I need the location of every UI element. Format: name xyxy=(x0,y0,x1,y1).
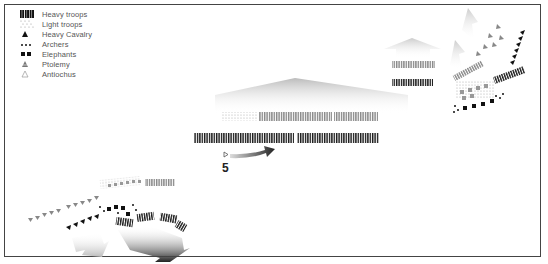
antiochus-icon xyxy=(224,152,228,157)
right-antiochus-heavy xyxy=(392,79,433,86)
legend-item-heavy-troops: Heavy troops xyxy=(20,9,92,19)
legend-item-antiochus: Antiochus xyxy=(20,69,92,79)
right-light-troops xyxy=(455,80,495,98)
left-antiochus-elephants xyxy=(99,204,137,216)
legend-label: Elephants xyxy=(42,50,76,59)
center-light-troops xyxy=(222,112,258,121)
center-advance-arrow xyxy=(215,78,408,113)
legend-label: Light troops xyxy=(42,20,82,29)
center-ptolemy-heavy-1 xyxy=(259,112,332,121)
legend-item-archers: Archers xyxy=(20,39,92,49)
archers-icon xyxy=(20,39,38,49)
antiochus-icon xyxy=(20,69,38,79)
right-ptolemy-heavy xyxy=(392,61,435,68)
left-retreat-arrow-dark xyxy=(118,226,190,262)
center-ptolemy-heavy-2 xyxy=(334,112,378,121)
center-formation xyxy=(194,78,408,143)
legend-label: Ptolemy xyxy=(42,60,70,69)
right-antiochus-cavalry xyxy=(510,30,525,65)
legend-label: Archers xyxy=(42,40,69,49)
legend-item-ptolemy: Ptolemy xyxy=(20,59,92,69)
right-advance-arrow-3 xyxy=(462,8,478,40)
light-troops-icon xyxy=(20,19,38,29)
legend-label: Heavy Cavalry xyxy=(42,30,92,39)
right-advance-arrow-2 xyxy=(450,40,465,70)
right-antiochus-heavy-angled xyxy=(493,66,525,84)
right-advance-arrow-1 xyxy=(384,38,441,58)
legend-label: Antiochus xyxy=(42,70,76,79)
legend: Heavy troops Light troops Heavy Cavalry … xyxy=(20,9,92,79)
center-antiochus-heavy-2 xyxy=(297,133,379,143)
left-antiochus-cavalry xyxy=(66,214,99,230)
ptolemy-icon xyxy=(20,59,38,69)
legend-item-heavy-cavalry: Heavy Cavalry xyxy=(20,29,92,39)
right-ptolemy-cavalry xyxy=(476,24,504,56)
heavy-troops-icon xyxy=(20,9,38,19)
elephants-icon xyxy=(20,49,38,59)
legend-item-elephants: Elephants xyxy=(20,49,92,59)
heavy-cavalry-icon xyxy=(20,29,38,39)
left-ptolemy-heavy xyxy=(145,179,175,186)
legend-item-light-troops: Light troops xyxy=(20,19,92,29)
left-retreat-arrow-light xyxy=(72,233,109,257)
phase-number: 5 xyxy=(222,161,229,175)
center-antiochus-heavy-1 xyxy=(194,133,294,143)
left-wing xyxy=(28,176,190,262)
legend-label: Heavy troops xyxy=(42,10,87,19)
movement-arrow-icon xyxy=(230,146,275,158)
phase-arrow xyxy=(224,146,275,158)
